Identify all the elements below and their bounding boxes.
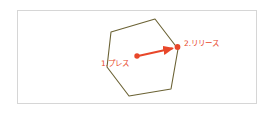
figure-graphic [0,0,274,114]
step-2-release-label: 2.リリース [184,40,219,48]
release-point-dot [175,44,181,50]
hexagon-outline [107,19,178,96]
press-point-dot [134,53,139,58]
drag-arrow [138,49,172,57]
step-1-press-label: 1.プレス [101,60,129,68]
figure-canvas: 1.プレス 2.リリース [0,0,274,114]
